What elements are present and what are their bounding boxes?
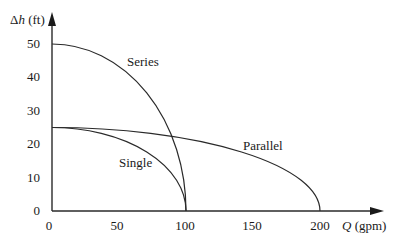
y-axis-label: Δh (ft) <box>10 12 45 27</box>
y-tick: 20 <box>27 136 40 151</box>
y-tick: 0 <box>34 203 41 218</box>
pump-curve-chart: 0 10 20 30 40 50 0 50 100 150 200 Δh (ft… <box>0 0 404 240</box>
x-tick: 50 <box>111 218 124 233</box>
x-tick: 0 <box>46 218 53 233</box>
y-tick: 10 <box>27 170 40 185</box>
x-tick: 100 <box>175 218 195 233</box>
y-axis-arrow-icon <box>48 12 56 26</box>
x-axis-label: Q (gpm) <box>342 218 386 233</box>
x-tick: 150 <box>242 218 262 233</box>
y-tick: 50 <box>27 36 40 51</box>
y-tick: 40 <box>27 69 40 84</box>
single-label: Single <box>119 155 152 170</box>
parallel-label: Parallel <box>243 138 283 153</box>
series-label: Series <box>127 54 159 69</box>
y-tick: 30 <box>27 103 40 118</box>
x-tick: 200 <box>310 218 330 233</box>
x-axis-arrow-icon <box>370 207 384 215</box>
